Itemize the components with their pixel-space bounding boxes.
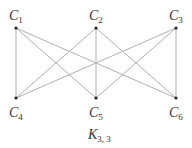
node-label-C3: C3: [169, 8, 183, 25]
caption-main: K: [87, 127, 98, 142]
node-label-C2: C2: [89, 8, 103, 25]
node-label-C5: C5: [89, 105, 103, 122]
edges-group: [16, 28, 176, 98]
node-C4: [14, 96, 17, 99]
node-label-C1: C1: [9, 8, 23, 25]
node-label-C4: C4: [9, 105, 23, 122]
node-C3: [174, 26, 177, 29]
node-C1: [14, 26, 17, 29]
caption-subscript: 3, 3: [97, 134, 111, 144]
node-C6: [174, 96, 177, 99]
node-label-C6: C6: [169, 105, 183, 122]
graph-caption: K3, 3: [87, 127, 111, 144]
node-C5: [94, 96, 97, 99]
node-C2: [94, 26, 97, 29]
k33-graph-diagram: C1C2C3C4C5C6 K3, 3: [0, 0, 192, 148]
